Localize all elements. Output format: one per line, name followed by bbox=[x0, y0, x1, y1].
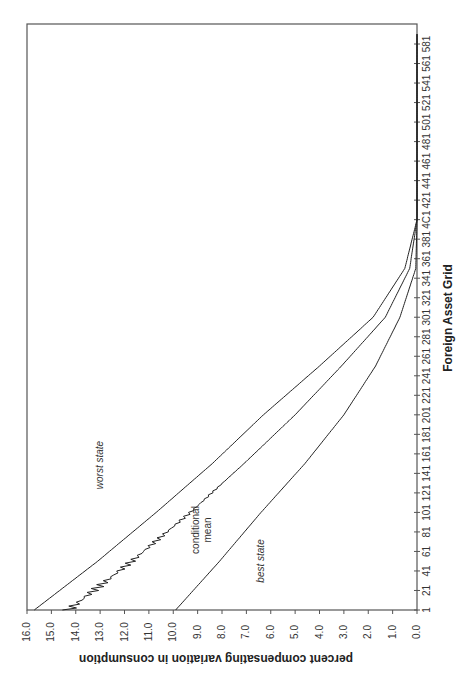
grid-tick-label: 201 bbox=[421, 406, 432, 423]
grid-tick-label: 501 bbox=[421, 113, 432, 130]
value-tick-label: 16.0 bbox=[21, 622, 32, 642]
grid-tick-label: 301 bbox=[421, 308, 432, 325]
value-tick-label: 15.0 bbox=[45, 622, 56, 642]
value-tick-label: 6.0 bbox=[265, 625, 276, 639]
grid-tick-label: 581 bbox=[421, 35, 432, 52]
grid-tick-label: 41 bbox=[421, 565, 432, 577]
annotation-conditional: conditional bbox=[190, 506, 201, 554]
grid-tick-label: 161 bbox=[421, 445, 432, 462]
annotation-mean: mean bbox=[202, 517, 213, 542]
grid-tick-label: 61 bbox=[421, 545, 432, 557]
grid-tick-label: 421 bbox=[421, 191, 432, 208]
value-tick-label: 3.0 bbox=[338, 625, 349, 639]
series-line-conditional-mean bbox=[62, 34, 417, 610]
annotation-best-state: best state bbox=[255, 539, 266, 583]
value-tick-label: 7.0 bbox=[240, 625, 251, 639]
value-tick-label: 10.0 bbox=[167, 622, 178, 642]
grid-tick-label: 521 bbox=[421, 94, 432, 111]
annotation-worst-state: worst state bbox=[94, 440, 105, 489]
value-tick-label: 2.0 bbox=[362, 625, 373, 639]
grid-tick-label: 381 bbox=[421, 230, 432, 247]
series-lines bbox=[34, 34, 417, 610]
grid-tick-label: 261 bbox=[421, 347, 432, 364]
value-tick-label: 8.0 bbox=[216, 625, 227, 639]
grid-tick-label: 21 bbox=[421, 584, 432, 596]
grid-tick-label: 121 bbox=[421, 484, 432, 501]
series-line-worst-state bbox=[34, 34, 417, 610]
value-tick-label: 13.0 bbox=[94, 622, 105, 642]
grid-tick-label: 241 bbox=[421, 367, 432, 384]
grid-tick-label: 461 bbox=[421, 152, 432, 169]
y-axis-title: percent compensating variation in consum… bbox=[79, 652, 353, 666]
x-axis-title: Foreign Asset Grid bbox=[441, 264, 455, 372]
grid-tick-label: 561 bbox=[421, 55, 432, 72]
grid-tick-label: 321 bbox=[421, 289, 432, 306]
value-tick-label: 14.0 bbox=[70, 622, 81, 642]
plot-frame bbox=[27, 24, 417, 610]
value-axis-ticks: 16.015.014.013.012.011.010.09.08.07.06.0… bbox=[21, 610, 422, 642]
value-tick-label: 1.0 bbox=[387, 625, 398, 639]
grid-tick-label: 221 bbox=[421, 387, 432, 404]
value-tick-label: 0.0 bbox=[411, 625, 422, 639]
grid-tick-label: 441 bbox=[421, 172, 432, 189]
chart-canvas: 16.015.014.013.012.011.010.09.08.07.06.0… bbox=[0, 0, 468, 677]
value-tick-label: 12.0 bbox=[119, 622, 130, 642]
grid-tick-label: 341 bbox=[421, 269, 432, 286]
grid-tick-label: 101 bbox=[421, 504, 432, 521]
grid-tick-label: 481 bbox=[421, 133, 432, 150]
grid-tick-label: 361 bbox=[421, 250, 432, 267]
grid-tick-label: 541 bbox=[421, 74, 432, 91]
grid-tick-label: 4C1 bbox=[421, 210, 432, 229]
grid-tick-label: 1 bbox=[421, 607, 432, 613]
value-tick-label: 4.0 bbox=[314, 625, 325, 639]
grid-tick-label: 81 bbox=[421, 526, 432, 538]
grid-tick-label: 281 bbox=[421, 328, 432, 345]
value-tick-label: 11.0 bbox=[143, 622, 154, 641]
grid-tick-label: 181 bbox=[421, 426, 432, 443]
value-tick-label: 9.0 bbox=[192, 625, 203, 639]
grid-tick-label: 141 bbox=[421, 465, 432, 482]
value-tick-label: 5.0 bbox=[289, 625, 300, 639]
